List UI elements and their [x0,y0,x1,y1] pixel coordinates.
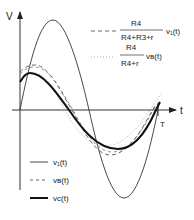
fraction-denominator: R4+R3+r [121,33,154,42]
fraction-denominator: R4+r [121,59,139,68]
x-axis-label: t [180,105,183,116]
legend: v₁(t) vʙ(t) vc(t) [30,158,69,203]
svg-text:v₁(t): v₁(t) [53,158,68,167]
annotation-signal: v₁(t) [166,27,181,36]
y-axis-label: V [6,11,13,22]
annotation-scaled-vb: R4 R4+r vʙ(t) [91,43,162,68]
annotation-scaled-v1: R4 R4+R3+r v₁(t) [91,19,181,42]
fraction-numerator: R4 [131,19,142,28]
curve-v1 [20,20,158,198]
svg-text:vʙ(t): vʙ(t) [53,176,69,185]
axes: V t T [6,11,183,190]
waveform-diagram: V t T R4 R4+R3+r v₁(t) R4 R4+r vʙ(t) v₁(… [0,0,194,220]
period-label: T [160,120,165,129]
fraction-numerator: R4 [126,43,137,52]
legend-item-vb: vʙ(t) [30,176,69,185]
svg-text:vc(t): vc(t) [53,194,69,203]
annotation-signal: vʙ(t) [146,52,162,61]
legend-item-v1: v₁(t) [30,158,68,167]
legend-item-vc: vc(t) [30,194,69,203]
